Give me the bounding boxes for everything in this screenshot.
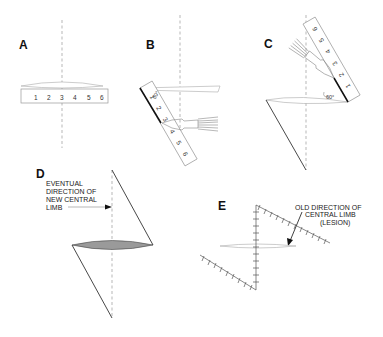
svg-text:3: 3 [60, 94, 64, 101]
ruler: 1 2 3 4 5 6 [140, 81, 197, 166]
panel-b: B 1 2 3 4 5 6 60° [140, 15, 220, 166]
panel-d: D EVENTUAL DIRECTION OF NEW CENTRAL LIMB [36, 167, 153, 318]
lesion-outline-old [220, 244, 296, 248]
limb-line [266, 100, 306, 170]
svg-text:6: 6 [100, 94, 104, 101]
annotation-line: NEW CENTRAL [46, 196, 97, 203]
lesion-ellipse-shaded [72, 241, 153, 250]
panel-a-label: A [19, 38, 28, 52]
suture-line-lower [200, 255, 256, 290]
panel-c: C 1 2 3 4 5 6 60° [264, 15, 360, 170]
annotation-line: LIMB [46, 204, 63, 211]
lesion-ellipse [21, 82, 103, 88]
arrow-line [290, 212, 302, 241]
annotation-line: DIRECTION OF [46, 188, 96, 195]
svg-text:2: 2 [47, 94, 51, 101]
annotation-line: (LESION) [320, 219, 350, 227]
svg-text:4: 4 [73, 94, 77, 101]
panel-e-label: E [218, 199, 226, 213]
annotation-line: CENTRAL LIMB [305, 211, 356, 218]
panel-a: A 1 2 3 4 5 6 [19, 20, 108, 148]
ruler: 1 2 3 4 5 6 [303, 17, 360, 102]
z-plasty-diagram: A 1 2 3 4 5 6 B 1 2 3 4 5 6 60° [0, 0, 383, 337]
lesion-ellipse [266, 97, 348, 103]
annotation-line: EVENTUAL [46, 180, 83, 187]
svg-text:1: 1 [34, 94, 38, 101]
panel-e: E OLD DIRECTION OF CENTRAL LIMB (LESION) [200, 199, 362, 290]
svg-text:5: 5 [87, 94, 91, 101]
panel-d-label: D [36, 167, 45, 181]
arrow-head-icon [287, 238, 293, 246]
limb-line [72, 245, 112, 318]
panel-c-label: C [264, 37, 273, 51]
panel-b-label: B [146, 38, 155, 52]
arrow-head-icon [105, 205, 112, 210]
limb-line [112, 170, 153, 245]
annotation-line: OLD DIRECTION OF [295, 204, 362, 211]
